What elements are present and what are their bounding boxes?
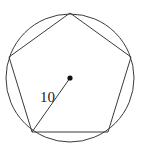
pentagon-in-circle-diagram: 10 bbox=[0, 0, 143, 155]
center-point bbox=[67, 75, 72, 80]
radius-label: 10 bbox=[40, 89, 55, 105]
radius-segment bbox=[32, 78, 70, 132]
